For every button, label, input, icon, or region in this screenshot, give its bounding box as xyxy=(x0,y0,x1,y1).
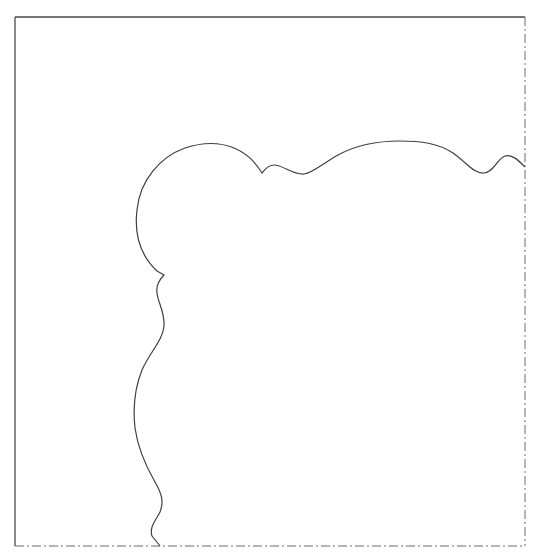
drawing-svg xyxy=(0,0,539,559)
drawing-canvas xyxy=(0,0,539,559)
freeform-wavy-outline xyxy=(134,141,525,546)
